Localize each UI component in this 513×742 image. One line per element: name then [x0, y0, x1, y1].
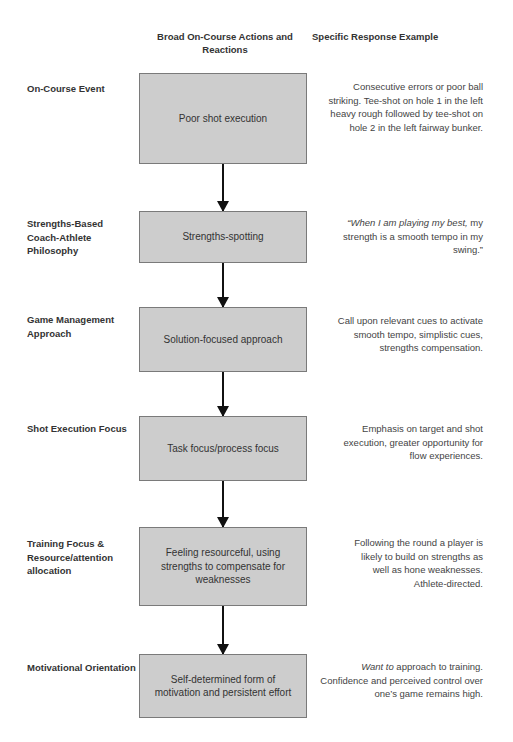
row-label-motivational-orientation: Motivational Orientation [27, 661, 137, 675]
arrow-5 [222, 606, 224, 654]
row-label-training-focus: Training Focus & Resource/attention allo… [27, 537, 137, 578]
arrow-4 [222, 481, 224, 527]
flow-box-text: Poor shot execution [179, 112, 267, 126]
flow-box-text: Feeling resourceful, using strengths to … [148, 546, 298, 587]
row-label-on-course-event: On-Course Event [27, 82, 137, 96]
row-label-game-management: Game Management Approach [27, 313, 137, 340]
flow-box-feeling-resourceful: Feeling resourceful, using strengths to … [139, 527, 307, 606]
response-on-course-event: Consecutive errors or poor ball striking… [318, 80, 483, 134]
response-motivational-orientation: Want to approach to training. Confidence… [311, 660, 483, 701]
row-label-shot-execution: Shot Execution Focus [27, 422, 137, 436]
row-label-strengths-philosophy: Strengths-Based Coach-Athlete Philosophy [27, 217, 137, 258]
response-game-management: Call upon relevant cues to activate smoo… [333, 314, 483, 355]
response-italic: Want to [361, 661, 394, 672]
header-middle: Broad On-Course Actions and Reactions [140, 30, 310, 56]
response-strengths-philosophy: “When I am playing my best, my strength … [318, 216, 483, 257]
response-training-focus: Following the round a player is likely t… [348, 536, 483, 590]
flow-box-text: Strengths-spotting [182, 230, 263, 244]
response-shot-execution: Emphasis on target and shot execution, g… [333, 422, 483, 463]
header-right: Specific Response Example [312, 30, 462, 43]
flow-box-text: Task focus/process focus [167, 442, 279, 456]
flow-box-solution-focused: Solution-focused approach [139, 307, 307, 372]
flow-box-self-determined: Self-determined form of motivation and p… [139, 654, 307, 718]
flow-box-text: Self-determined form of motivation and p… [148, 673, 298, 700]
flow-box-strengths-spotting: Strengths-spotting [139, 211, 307, 263]
flow-box-text: Solution-focused approach [164, 333, 283, 347]
response-italic: “When I am playing my best, [347, 217, 467, 228]
arrow-3 [222, 372, 224, 416]
arrow-1 [222, 164, 224, 211]
flow-box-poor-shot-execution: Poor shot execution [139, 73, 307, 164]
flow-box-task-focus: Task focus/process focus [139, 416, 307, 481]
arrow-2 [222, 263, 224, 307]
response-text: approach to training. Confidence and per… [320, 661, 483, 699]
